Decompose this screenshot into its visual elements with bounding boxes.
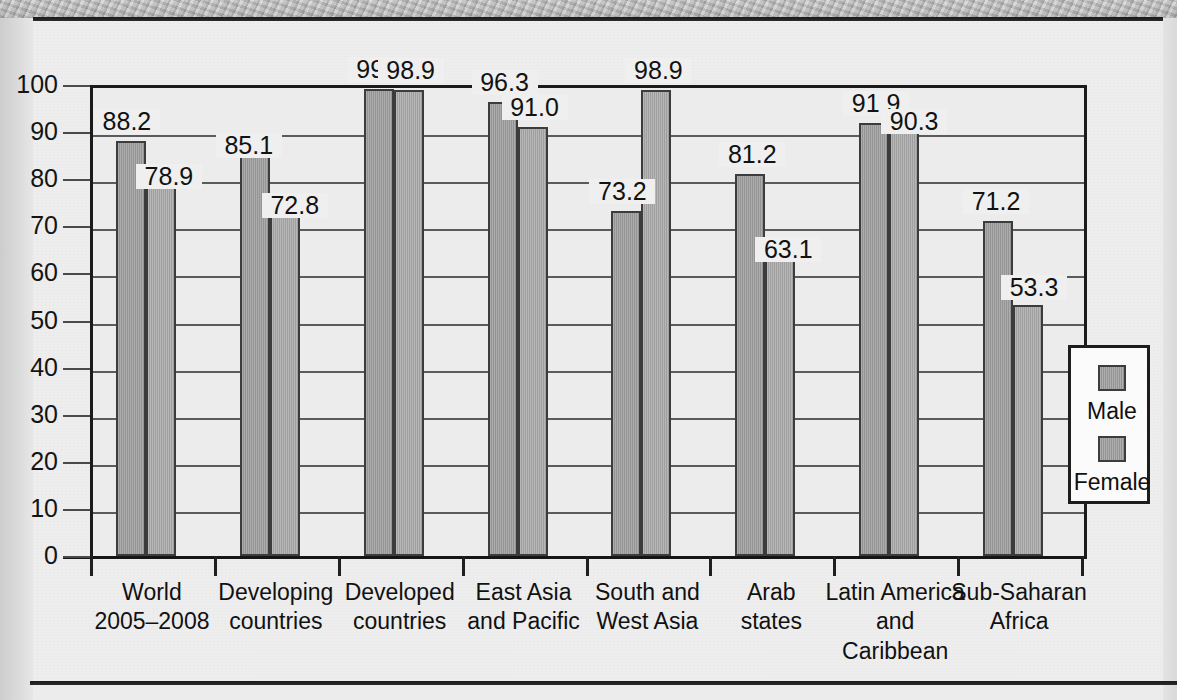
y-tick-50 bbox=[63, 321, 90, 323]
legend-label-female: Female bbox=[1071, 471, 1153, 494]
legend-label-male: Male bbox=[1071, 400, 1153, 423]
y-tick-label-80: 80 bbox=[0, 166, 58, 191]
value-label-male-5: 81.2 bbox=[719, 142, 785, 167]
y-tick-label-0: 0 bbox=[0, 543, 58, 568]
value-label-male-7: 71.2 bbox=[963, 189, 1029, 214]
y-tick-100 bbox=[63, 85, 90, 87]
y-tick-80 bbox=[63, 179, 90, 181]
legend-swatch-male bbox=[1098, 365, 1126, 391]
y-tick-label-100: 100 bbox=[0, 72, 58, 97]
bar-male-4 bbox=[611, 211, 641, 556]
value-label-female-1: 72.8 bbox=[262, 193, 328, 218]
x-tick-0 bbox=[90, 556, 93, 576]
category-label-7: Sub-SaharanAfrica bbox=[934, 578, 1104, 637]
scanned-page: 0102030405060708090100 88.278.985.172.89… bbox=[0, 0, 1177, 700]
y-tick-30 bbox=[63, 415, 90, 417]
value-label-female-5: 63.1 bbox=[755, 237, 821, 262]
value-label-male-0: 88.2 bbox=[94, 109, 160, 134]
y-tick-label-10: 10 bbox=[0, 496, 58, 521]
bar-male-5 bbox=[735, 174, 765, 556]
legend: Male Female bbox=[1068, 345, 1150, 504]
bar-female-1 bbox=[270, 213, 300, 556]
x-tick-4 bbox=[586, 556, 589, 576]
y-tick-10 bbox=[63, 509, 90, 511]
y-tick-60 bbox=[63, 273, 90, 275]
x-tick-7 bbox=[957, 556, 960, 576]
value-label-male-1: 85.1 bbox=[216, 133, 282, 158]
y-tick-label-90: 90 bbox=[0, 119, 58, 144]
value-label-female-3: 91.0 bbox=[502, 95, 568, 120]
x-tick-3 bbox=[462, 556, 465, 576]
x-tick-8 bbox=[1081, 556, 1084, 576]
y-tick-label-30: 30 bbox=[0, 402, 58, 427]
bar-female-7 bbox=[1013, 305, 1043, 556]
value-label-male-4: 73.2 bbox=[589, 179, 655, 204]
legend-swatch-female bbox=[1098, 436, 1126, 462]
bar-chart: 0102030405060708090100 88.278.985.172.89… bbox=[0, 0, 1177, 700]
value-label-female-7: 53.3 bbox=[1001, 275, 1067, 300]
value-label-male-3: 96.3 bbox=[472, 70, 538, 95]
bar-male-0 bbox=[116, 141, 146, 556]
bar-male-2 bbox=[364, 89, 394, 556]
y-tick-label-20: 20 bbox=[0, 449, 58, 474]
value-label-female-6: 90.3 bbox=[881, 109, 947, 134]
x-tick-5 bbox=[709, 556, 712, 576]
bar-male-3 bbox=[488, 102, 518, 556]
bar-female-6 bbox=[889, 131, 919, 556]
y-tick-20 bbox=[63, 462, 90, 464]
bar-female-3 bbox=[518, 127, 548, 556]
value-label-female-4: 98.9 bbox=[625, 58, 691, 83]
y-tick-label-70: 70 bbox=[0, 213, 58, 238]
bar-male-6 bbox=[859, 123, 889, 556]
bar-male-7 bbox=[983, 221, 1013, 556]
x-tick-1 bbox=[214, 556, 217, 576]
x-tick-6 bbox=[833, 556, 836, 576]
bar-female-5 bbox=[765, 259, 795, 556]
y-tick-label-50: 50 bbox=[0, 308, 58, 333]
bar-female-2 bbox=[394, 90, 424, 556]
y-tick-70 bbox=[63, 226, 90, 228]
y-tick-90 bbox=[63, 132, 90, 134]
bar-female-0 bbox=[146, 184, 176, 556]
bar-female-4 bbox=[641, 90, 671, 556]
y-tick-label-40: 40 bbox=[0, 355, 58, 380]
y-tick-0 bbox=[63, 556, 90, 558]
x-tick-2 bbox=[338, 556, 341, 576]
value-label-female-0: 78.9 bbox=[136, 164, 202, 189]
value-label-female-2: 98.9 bbox=[378, 58, 444, 83]
y-tick-label-60: 60 bbox=[0, 260, 58, 285]
y-tick-40 bbox=[63, 368, 90, 370]
